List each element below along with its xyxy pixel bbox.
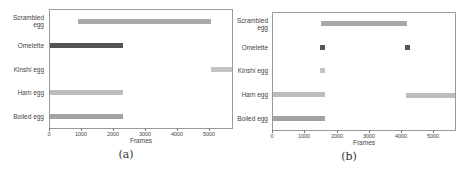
y-label-line1: Scrambled: [224, 17, 268, 24]
y-label-ham-egg: Ham egg: [224, 91, 268, 98]
x-tick-label: 4000: [165, 131, 189, 137]
y-label-kinshi-egg: Kinshi egg: [224, 67, 268, 74]
caption-a: (a): [111, 148, 141, 161]
bar-omelette: [50, 43, 123, 48]
point-kinshi-egg: [320, 68, 325, 73]
bar-scrambled-egg: [321, 21, 407, 26]
bar-ham-egg: [50, 90, 123, 95]
plot-frame-b: [272, 12, 456, 131]
x-tick-label: 0: [37, 131, 61, 137]
caption-b: (b): [334, 150, 364, 163]
plot-frame-a: [49, 9, 233, 129]
bar-boiled-egg: [50, 114, 123, 119]
y-label-line2: egg: [0, 21, 44, 28]
panel-b: Scrambled egg Omelette Kinshi egg Ham eg…: [236, 0, 472, 173]
y-label-kinshi-egg: Kinshi egg: [0, 66, 44, 73]
x-tick-label: 5000: [421, 133, 445, 139]
y-label-ham-egg: Ham egg: [0, 89, 44, 96]
x-tick-label: 1000: [292, 133, 316, 139]
y-label-boiled-egg: Boiled egg: [224, 115, 268, 122]
bar-ham-egg: [406, 93, 455, 98]
y-label-omelette: Omelette: [224, 44, 268, 51]
x-axis-label: Frames: [121, 137, 161, 144]
panel-a: Scrambled egg Omelette Kinshi egg Ham eg…: [0, 0, 236, 173]
y-label-scrambled-egg: Scrambled egg: [0, 14, 44, 28]
point-omelette: [320, 45, 325, 50]
x-tick-label: 0: [260, 133, 284, 139]
x-tick-label: 1000: [69, 131, 93, 137]
bar-ham-egg: [273, 92, 325, 97]
point-omelette: [405, 45, 410, 50]
bar-scrambled-egg: [78, 19, 211, 24]
x-tick-label: 4000: [389, 133, 413, 139]
y-label-boiled-egg: Boiled egg: [0, 113, 44, 120]
y-label-line2: egg: [224, 24, 268, 31]
y-label-omelette: Omelette: [0, 42, 44, 49]
y-label-line1: Scrambled: [0, 14, 44, 21]
y-label-scrambled-egg: Scrambled egg: [224, 17, 268, 31]
x-tick-label: 5000: [197, 131, 221, 137]
bar-boiled-egg: [273, 116, 325, 121]
x-axis-label: Frames: [344, 139, 384, 146]
